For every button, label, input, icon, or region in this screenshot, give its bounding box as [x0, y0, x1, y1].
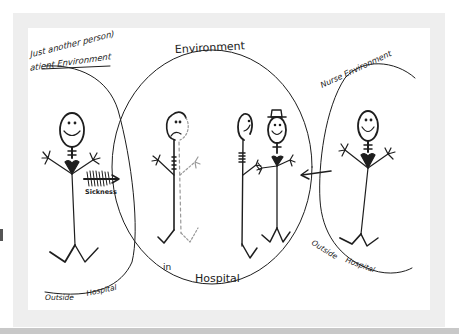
nurse-title: Nurse Environment [319, 49, 394, 90]
nurse-environment-labels: Nurse Environment Outside Hospital [310, 49, 394, 275]
sickness-label: Sickness [85, 188, 117, 196]
nurse-arrow [301, 170, 331, 179]
figure-nurse-hospital [257, 110, 295, 242]
patient-bottom-left: Outside [45, 293, 74, 302]
center-bottom-right: Hospital [195, 272, 240, 285]
environment-diagram: Just another person) atient Environment … [0, 0, 459, 334]
center-environment-labels: Environment in Hospital [163, 39, 246, 285]
figure-companion [238, 114, 261, 258]
hospital-environment-circle [112, 50, 312, 284]
center-bottom-left: in [163, 262, 171, 272]
figure-nurse-outside [339, 111, 395, 246]
figure-patient-sick [152, 112, 200, 243]
patient-bottom-right: Hospital [86, 283, 119, 298]
nurse-bottom-right: Hospital [344, 255, 377, 274]
nurse-bottom-left: Outside [310, 238, 340, 261]
sickness-arrow [84, 171, 119, 186]
nurse-environment-arc [320, 64, 415, 273]
